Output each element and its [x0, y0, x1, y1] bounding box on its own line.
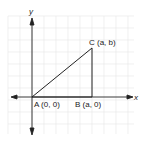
point-a-label: A (0, 0)	[34, 100, 60, 109]
grid	[8, 16, 134, 134]
y-axis-label: y	[28, 7, 34, 16]
triangle-abc	[32, 48, 92, 97]
point-b-label: B (a, 0)	[75, 100, 102, 109]
x-axis-left-arrow-icon	[11, 95, 17, 99]
x-axis-right-arrow-icon	[127, 95, 133, 99]
point-c-label: C (a, b)	[89, 38, 116, 47]
y-axis-up-arrow-icon	[30, 18, 34, 25]
coordinate-diagram: x y A (0, 0) B (a, 0) C (a, b)	[0, 0, 144, 143]
y-axis-down-arrow-icon	[30, 128, 34, 135]
x-axis-label: x	[133, 93, 139, 102]
y-axis	[30, 18, 34, 135]
